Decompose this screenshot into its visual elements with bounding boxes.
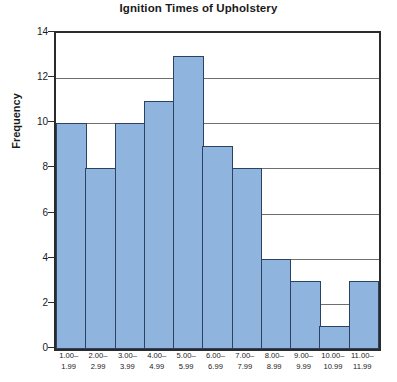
y-tick-mark (48, 257, 54, 258)
y-tick-mark (48, 302, 54, 303)
x-tick-label: 5.00–5.99 (171, 350, 200, 372)
y-tick-label: 12 (18, 71, 48, 82)
x-tick-label: 9.00–9.99 (289, 350, 318, 372)
y-tick-label: 4 (18, 251, 48, 262)
bar (85, 168, 116, 349)
x-tick-label: 11.00–11.99 (348, 350, 377, 372)
x-tick-label: 8.00–8.99 (260, 350, 289, 372)
bar (144, 101, 175, 349)
x-tick-label: 6.00–6.99 (201, 350, 230, 372)
y-tick-mark (48, 121, 54, 122)
y-tick-label: 8 (18, 161, 48, 172)
bar (319, 326, 350, 349)
plot-area (54, 31, 381, 351)
bar (173, 56, 204, 349)
bar (349, 281, 380, 349)
y-tick-label: 6 (18, 206, 48, 217)
bar (290, 281, 321, 349)
bar (202, 146, 233, 349)
x-tick-label: 3.00–3.99 (113, 350, 142, 372)
histogram-chart: Ignition Times of Upholstery Frequency 1… (0, 0, 397, 382)
x-tick-label: 7.00–7.99 (230, 350, 259, 372)
chart-title: Ignition Times of Upholstery (0, 2, 397, 14)
x-tick-label: 10.00–10.99 (318, 350, 347, 372)
bar (115, 123, 146, 349)
x-tick-label: 2.00–2.99 (83, 350, 112, 372)
x-tick-label: 4.00–4.99 (142, 350, 171, 372)
bar (56, 123, 87, 349)
y-tick-label: 0 (18, 342, 48, 353)
y-tick-mark (48, 31, 54, 32)
y-tick-mark (48, 76, 54, 77)
bar-series (56, 33, 379, 349)
y-tick-label: 10 (18, 116, 48, 127)
y-tick-label: 14 (18, 26, 48, 37)
x-axis-ticks: 1.00–1.992.00–2.993.00–3.994.00–4.995.00… (54, 350, 377, 372)
y-tick-mark (48, 166, 54, 167)
bar (232, 168, 263, 349)
y-tick-mark (48, 212, 54, 213)
x-tick-label: 1.00–1.99 (54, 350, 83, 372)
bar (261, 259, 292, 349)
y-tick-mark (48, 347, 54, 348)
y-tick-label: 2 (18, 296, 48, 307)
